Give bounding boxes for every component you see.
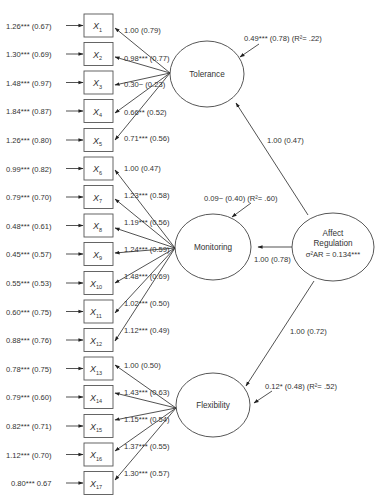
sem-diagram: 1.26*** (0.67) 1.30*** (0.69) 1.48*** (0… <box>0 0 375 503</box>
error-label-x12: 0.88*** (0.76) <box>6 336 52 345</box>
loading-label-x15: 1.15*** (0.54) <box>124 415 170 424</box>
error-label-x13: 0.78*** (0.75) <box>6 365 52 374</box>
indicator-x16: X16 <box>84 443 113 466</box>
loading-label-x8: 1.19*** (0.56) <box>124 218 170 227</box>
disturbance-tolerance: 0.49*** (0.78) (R²= .22) <box>244 34 322 43</box>
indicator-x9: X9 <box>84 243 113 266</box>
error-label-x10: 0.55*** (0.53) <box>6 279 52 288</box>
indicator-x6: X6 <box>84 157 113 180</box>
loading-label-x1: 1.00 (0.79) <box>124 26 161 35</box>
loading-label-x10: 1.48*** (0.69) <box>124 272 170 281</box>
indicator-x5: X5 <box>84 129 113 152</box>
error-label-x2: 1.30*** (0.69) <box>6 50 52 59</box>
error-label-x14: 0.79*** (0.60) <box>6 393 52 402</box>
error-label-x6: 0.99*** (0.82) <box>6 165 52 174</box>
indicator-x7: X7 <box>84 186 113 209</box>
loading-label-x17: 1.30*** (0.57) <box>124 469 170 478</box>
error-label-x17: 0.80*** 0.67 <box>11 479 52 488</box>
loading-label-x2: 0.98*** (0.77) <box>124 54 170 63</box>
loading-label-x11: 1.02*** (0.50) <box>124 299 170 308</box>
error-labels: 1.26*** (0.67) 1.30*** (0.69) 1.48*** (0… <box>6 22 52 489</box>
indicator-x13: X13 <box>84 357 113 380</box>
error-label-x1: 1.26*** (0.67) <box>6 22 52 31</box>
indicator-x8: X8 <box>84 214 113 237</box>
disturbance-monitoring: 0.09~ (0.40) (R²= .60) <box>204 194 278 203</box>
svg-text:Regulation: Regulation <box>313 239 353 248</box>
error-label-x7: 0.79*** (0.70) <box>6 193 52 202</box>
indicator-x15: X15 <box>84 415 113 438</box>
loading-label-x6: 1.00 (0.47) <box>124 164 161 173</box>
svg-text:Affect: Affect <box>323 229 345 238</box>
latent-affect-regulation: Affect Regulation σ²AR = 0.134*** <box>292 213 374 281</box>
error-label-x8: 0.48*** (0.61) <box>6 222 52 231</box>
indicator-x14: X14 <box>84 386 113 409</box>
latent-flexibility: Flexibility <box>176 373 250 437</box>
loading-label-x14: 1.43*** (0.63) <box>124 388 170 397</box>
path-label-flexibility: 1.00 (0.72) <box>290 327 327 336</box>
path-label-monitoring: 1.00 (0.78) <box>254 255 291 264</box>
loading-label-x12: 1.12*** (0.49) <box>124 326 170 335</box>
error-arrows <box>66 26 83 484</box>
indicator-x1: X1 <box>84 14 113 37</box>
loading-label-x13: 1.00 (0.50) <box>124 361 161 370</box>
error-label-x3: 1.48*** (0.97) <box>6 79 52 88</box>
svg-text:Flexibility: Flexibility <box>196 401 231 410</box>
svg-text:Tolerance: Tolerance <box>189 70 225 79</box>
latent-monitoring: Monitoring <box>175 214 251 280</box>
indicator-x11: X11 <box>84 300 113 323</box>
indicator-x3: X3 <box>84 71 113 94</box>
indicator-x2: X2 <box>84 43 113 66</box>
error-label-x16: 1.12*** (0.70) <box>6 451 52 460</box>
svg-text:Monitoring: Monitoring <box>194 243 233 252</box>
loading-label-x7: 1.23*** (0.58) <box>124 191 170 200</box>
disturbance-flexibility: 0.12* (0.48) (R²= .52) <box>265 382 337 391</box>
indicator-x10: X10 <box>84 272 113 295</box>
error-label-x11: 0.60*** (0.75) <box>6 308 52 317</box>
error-label-x5: 1.26*** (0.80) <box>6 136 52 145</box>
path-label-tolerance: 1.00 (0.47) <box>267 136 304 145</box>
loading-label-x16: 1.37*** (0.55) <box>124 442 170 451</box>
indicator-boxes: X1 X2 X3 X4 X5 X6 X7 X8 X9 X10 X11 X12 X… <box>84 14 113 495</box>
indicator-x17: X17 <box>84 472 113 495</box>
loading-label-x3: 0.30~ (0.23) <box>124 80 166 89</box>
loading-label-x4: 0.66** (0.52) <box>124 108 167 117</box>
error-label-x15: 0.82*** (0.71) <box>6 422 52 431</box>
loading-label-x5: 0.71*** (0.56) <box>124 134 170 143</box>
loading-label-x9: 1.24*** (0.59) <box>124 245 170 254</box>
error-label-x9: 0.45*** (0.57) <box>6 250 52 259</box>
indicator-x4: X4 <box>84 100 113 123</box>
latent-tolerance: Tolerance <box>170 41 244 107</box>
affect-regulation-variance: σ²AR = 0.134*** <box>306 250 360 259</box>
error-label-x4: 1.84*** (0.87) <box>6 107 52 116</box>
indicator-x12: X12 <box>84 329 113 352</box>
